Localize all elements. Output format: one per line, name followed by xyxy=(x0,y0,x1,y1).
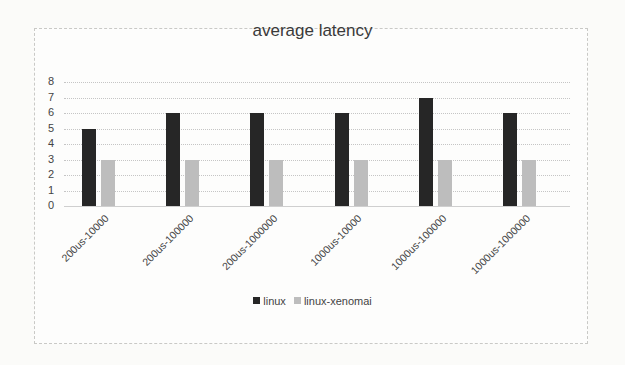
y-tick-label: 6 xyxy=(40,106,54,118)
y-tick-label: 4 xyxy=(40,137,54,149)
gridline xyxy=(64,98,570,99)
bar-linux-xenomai-200us-100000 xyxy=(185,160,199,207)
y-tick-label: 8 xyxy=(40,75,54,87)
gridline xyxy=(64,191,570,192)
legend-swatch-icon xyxy=(253,297,260,304)
bar-linux-xenomai-200us-10000 xyxy=(101,160,115,207)
legend-item-linux: linux xyxy=(253,295,286,307)
chart-title: average latency xyxy=(0,21,625,41)
bar-linux-1000us-10000 xyxy=(335,113,349,206)
bar-linux-1000us-100000 xyxy=(419,98,433,207)
y-tick-label: 3 xyxy=(40,153,54,165)
bar-linux-200us-1000000 xyxy=(250,113,264,206)
gridline xyxy=(64,129,570,130)
y-tick-label: 2 xyxy=(40,168,54,180)
bar-linux-xenomai-200us-1000000 xyxy=(269,160,283,207)
y-tick-label: 1 xyxy=(40,184,54,196)
bar-linux-200us-100000 xyxy=(166,113,180,206)
bar-linux-xenomai-1000us-1000000 xyxy=(522,160,536,207)
gridline xyxy=(64,206,570,207)
bar-linux-1000us-1000000 xyxy=(503,113,517,206)
gridline xyxy=(64,160,570,161)
legend-item-linux-xenomai: linux-xenomai xyxy=(294,295,372,307)
gridline xyxy=(64,82,570,83)
legend: linuxlinux-xenomai xyxy=(0,294,625,307)
bar-linux-200us-10000 xyxy=(82,129,96,207)
gridline xyxy=(64,144,570,145)
legend-label: linux-xenomai xyxy=(304,295,372,307)
gridline xyxy=(64,113,570,114)
y-tick-label: 7 xyxy=(40,91,54,103)
gridline xyxy=(64,175,570,176)
bar-linux-xenomai-1000us-100000 xyxy=(438,160,452,207)
y-tick-label: 5 xyxy=(40,122,54,134)
plot-area: 012345678 xyxy=(64,82,570,206)
y-tick-label: 0 xyxy=(40,199,54,211)
legend-swatch-icon xyxy=(294,297,301,304)
bar-linux-xenomai-1000us-10000 xyxy=(354,160,368,207)
legend-label: linux xyxy=(263,295,286,307)
